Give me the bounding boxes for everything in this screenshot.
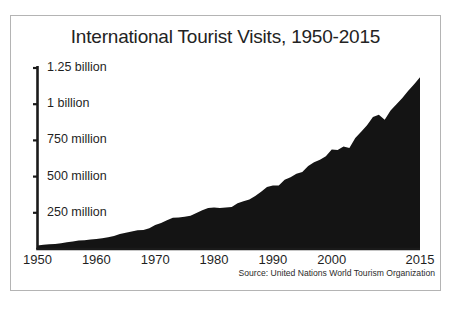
y-axis-label-4: 1.25 billion: [47, 60, 107, 74]
x-axis-label-2: 1970: [141, 252, 170, 267]
chart-figure: International Tourist Visits, 1950-2015 …: [0, 0, 457, 311]
x-axis-label-5: 2000: [317, 252, 346, 267]
y-axis-label-2: 750 million: [47, 132, 107, 146]
chart-svg: [0, 0, 457, 311]
y-axis-label-3: 1 billion: [47, 96, 89, 110]
x-axis-label-1: 1960: [82, 252, 111, 267]
x-axis-label-4: 1990: [258, 252, 287, 267]
area-series-tourist-visits: [38, 77, 421, 249]
x-axis-label-3: 1980: [200, 252, 229, 267]
x-axis-label-6: 2015: [406, 252, 435, 267]
x-axis-label-0: 1950: [23, 252, 52, 267]
plot-area: [0, 0, 457, 311]
y-axis-label-0: 250 million: [47, 205, 107, 219]
y-axis-label-1: 500 million: [47, 169, 107, 183]
source-note: Source: United Nations World Tourism Org…: [239, 268, 435, 278]
